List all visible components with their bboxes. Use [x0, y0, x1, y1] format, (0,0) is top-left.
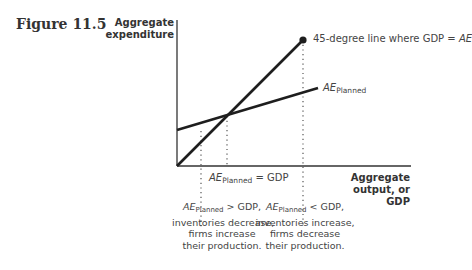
equilibrium-label-sub: Planned [222, 176, 252, 185]
forty-five-degree-line [177, 40, 303, 166]
ae-planned-label-sub: Planned [336, 86, 366, 95]
ae-planned-line-label: AEPlanned [323, 82, 366, 97]
equilibrium-label: AEPlanned = GDP [209, 172, 288, 187]
left-note-ae: AE [183, 201, 196, 212]
forty-five-endpoint-dot [299, 36, 306, 43]
right-note-line4: their production. [255, 240, 355, 252]
forty-five-label-ae: AE [459, 33, 472, 44]
x-axis-label-line1: Aggregate [330, 172, 410, 184]
right-note-line2: inventories increase, [255, 217, 355, 229]
right-note-ae: AE [266, 201, 279, 212]
left-note-sub: Planned [195, 206, 223, 214]
right-note-line1: AEPlanned < GDP, [255, 201, 355, 217]
forty-five-label-text: 45-degree line where GDP = [313, 33, 459, 44]
right-note-sub: Planned [278, 206, 306, 214]
equilibrium-label-rest: = GDP [252, 172, 288, 183]
right-note-line3: firms decrease [255, 228, 355, 240]
forty-five-line-label: 45-degree line where GDP = AE [313, 33, 472, 45]
equilibrium-label-main: AE [209, 172, 222, 183]
right-note: AEPlanned < GDP, inventories increase, f… [255, 201, 355, 251]
ae-planned-label-main: AE [323, 82, 336, 93]
right-note-rest: < GDP, [307, 201, 344, 212]
